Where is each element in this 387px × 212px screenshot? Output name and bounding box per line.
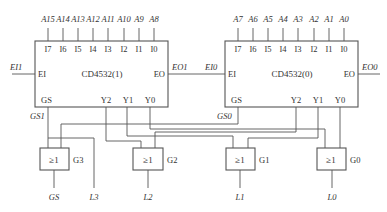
pin-eo: EO [344,69,355,79]
gate-symbol: ≥1 [143,155,152,165]
pin-i4: I4 [279,44,287,54]
pin-y2: Y2 [291,95,301,105]
output-l2: L2 [143,192,154,202]
addr-a1: A1 [323,14,333,24]
pin-i7: I7 [234,44,241,54]
addr-a8: A8 [148,14,159,24]
addr-a5: A5 [262,14,272,24]
gate-g1: ≥1 G1 L1 [226,148,269,202]
addr-a14: A14 [55,14,70,24]
addr-a0: A0 [338,14,349,24]
output-l1: L1 [235,192,245,202]
wiring [48,107,340,188]
addr-a9: A9 [133,14,144,24]
pin-ei: EI [228,69,236,79]
pin-i6: I6 [59,44,66,54]
addr-a13: A13 [70,14,85,24]
net-gs0: GS0 [217,111,232,121]
pin-i5: I5 [74,44,81,54]
priority-encoder-diagram: A15 A14 A13 A12 A11 A10 A9 A8 I7 I6 I5 I… [0,0,387,212]
pin-i0: I0 [150,44,157,54]
pin-i2: I2 [310,44,317,54]
chip-name: CD4532(1) [82,69,123,79]
pin-i5: I5 [264,44,271,54]
pin-i6: I6 [249,44,256,54]
pin-i0: I0 [340,44,347,54]
gate-label: G0 [350,155,360,165]
gate-symbol: ≥1 [49,155,58,165]
addr-a11: A11 [100,14,114,24]
gate-label: G1 [259,155,269,165]
pin-ei: EI [38,69,46,79]
pin-y2: Y2 [101,95,111,105]
pin-i3: I3 [294,44,301,54]
net-ei0: EI0 [204,62,218,72]
addr-a7: A7 [232,14,243,24]
output-gs: GS [49,192,60,202]
pin-i1: I1 [325,44,332,54]
addr-a4: A4 [277,14,288,24]
gate-symbol: ≥1 [235,155,244,165]
gate-symbol: ≥1 [326,155,335,165]
gate-g2: ≥1 G2 L2 [133,148,177,202]
chip-cd4532-1: A15 A14 A13 A12 A11 A10 A9 A8 I7 I6 I5 I… [9,14,200,121]
gate-g3: ≥1 G3 GS [40,148,83,202]
net-eo0: EO0 [361,62,378,72]
pin-eo: EO [154,69,165,79]
addr-a2: A2 [308,14,319,24]
addr-a12: A12 [85,14,100,24]
addr-a15: A15 [40,14,55,24]
output-l3: L3 [89,192,99,202]
addr-a6: A6 [247,14,258,24]
addr-a10: A10 [116,14,131,24]
net-eo1: EO1 [171,62,188,72]
pin-y0: Y0 [145,95,155,105]
pin-i3: I3 [104,44,111,54]
pin-i2: I2 [120,44,127,54]
gate-label: G3 [73,155,83,165]
pin-i1: I1 [135,44,142,54]
pin-y1: Y1 [313,95,323,105]
pin-gs: GS [231,95,242,105]
pin-i7: I7 [44,44,51,54]
pin-gs: GS [41,95,52,105]
gate-g0: ≥1 G0 L0 [317,148,360,202]
chip-name: CD4532(0) [272,69,313,79]
pin-i4: I4 [89,44,97,54]
output-l0: L0 [327,192,338,202]
pin-y1: Y1 [123,95,133,105]
net-ei1: EI1 [9,62,22,72]
gate-label: G2 [167,155,177,165]
addr-a3: A3 [292,14,302,24]
net-gs1: GS1 [30,111,45,121]
pin-y0: Y0 [335,95,345,105]
chip-cd4532-0: A7 A6 A5 A4 A3 A2 A1 A0 I7 I6 I5 I4 I3 I… [200,14,380,121]
